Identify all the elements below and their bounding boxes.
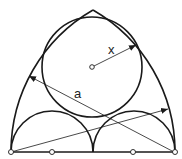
gothic-arch-diagram: x a (0, 0, 182, 159)
center-point (90, 65, 95, 70)
span-label: a (74, 86, 82, 101)
arch-left-arc (11, 10, 93, 152)
radius-label: x (108, 42, 115, 57)
left-quarter-point (50, 150, 55, 155)
left-base-point (9, 150, 14, 155)
right-quarter-point (131, 150, 136, 155)
right-base-point (173, 150, 178, 155)
span-arrow (29, 76, 174, 152)
left-semicircle (11, 111, 93, 152)
